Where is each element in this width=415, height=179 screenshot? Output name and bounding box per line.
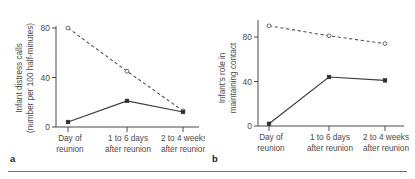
solid-line-path-a xyxy=(68,101,183,122)
y-axis-title-b: Infant's role in maintaining contact xyxy=(218,42,238,113)
dashed-marker-1-b xyxy=(267,24,271,28)
chart-panel-b: 80 40 0 xyxy=(205,0,410,179)
y-tick-label-0-a: 0 xyxy=(45,122,50,132)
solid-marker-1-a xyxy=(66,120,70,124)
y-tick-label-80-b: 80 xyxy=(243,32,253,42)
x-cat-2-line1-a: 1 to 6 days xyxy=(108,134,148,143)
y-axis-title-line1-b: Infant's role in xyxy=(218,52,227,103)
y-axis-title-line2-b: maintaining contact xyxy=(229,42,238,113)
panel-letter-b: b xyxy=(212,153,218,164)
panel-letter-a: a xyxy=(10,153,16,164)
solid-marker-3-a xyxy=(181,110,185,114)
y-tick-label-80-a: 80 xyxy=(41,23,51,33)
x-cat-1-line2-a: reunion xyxy=(56,145,84,154)
solid-marker-2-b xyxy=(327,75,331,79)
x-cat-3-line1-a: 2 to 4 weeks xyxy=(161,134,205,143)
series-solid-a xyxy=(66,99,185,124)
x-category-labels-a: Day of reunion 1 to 6 days after reunion… xyxy=(56,134,205,154)
x-axis-b xyxy=(258,126,404,131)
x-cat-1-line2-b: reunion xyxy=(257,144,285,153)
solid-marker-3-b xyxy=(383,79,387,83)
footer-divider xyxy=(8,171,407,172)
chart-panel-a: 80 40 0 xyxy=(0,0,205,179)
y-axis-b: 80 40 0 xyxy=(243,20,258,131)
dashed-marker-2-b xyxy=(327,34,331,38)
y-axis-a: 80 40 0 xyxy=(41,23,56,132)
x-cat-3-line2-b: after reunion xyxy=(363,144,409,153)
chart-svg-b: 80 40 0 xyxy=(205,0,410,179)
x-cat-1-line1-b: Day of xyxy=(259,133,283,142)
y-axis-title-line2-a: (number per 100 half-minutes) xyxy=(26,23,35,133)
dashed-marker-1-a xyxy=(66,26,70,30)
x-cat-2-line1-b: 1 to 6 days xyxy=(310,133,350,142)
x-cat-2-line2-b: after reunion xyxy=(307,144,353,153)
x-cat-3-line1-b: 2 to 4 weeks xyxy=(363,133,409,142)
y-tick-label-40-b: 40 xyxy=(243,77,253,87)
x-cat-3-line2-a: after reunion xyxy=(161,145,205,154)
y-tick-label-40-a: 40 xyxy=(41,73,51,83)
dashed-marker-2-a xyxy=(125,69,129,73)
solid-marker-2-a xyxy=(125,99,129,103)
series-dashed-b xyxy=(267,24,387,46)
x-axis-a xyxy=(56,127,199,132)
solid-marker-1-b xyxy=(267,122,271,126)
y-tick-label-0-b: 0 xyxy=(247,121,252,131)
x-cat-1-line1-a: Day of xyxy=(58,134,82,143)
series-solid-b xyxy=(267,75,387,125)
y-axis-title-a: Infant distress calls (number per 100 ha… xyxy=(15,23,35,133)
dashed-marker-3-b xyxy=(383,42,387,46)
y-axis-title-line1-a: Infant distress calls xyxy=(15,43,24,113)
x-category-labels-b: Day of reunion 1 to 6 days after reunion… xyxy=(257,133,409,153)
x-cat-2-line2-a: after reunion xyxy=(105,145,151,154)
chart-svg-a: 80 40 0 xyxy=(0,0,205,179)
solid-line-path-b xyxy=(269,77,385,124)
figure-container: 80 40 0 xyxy=(0,0,415,179)
